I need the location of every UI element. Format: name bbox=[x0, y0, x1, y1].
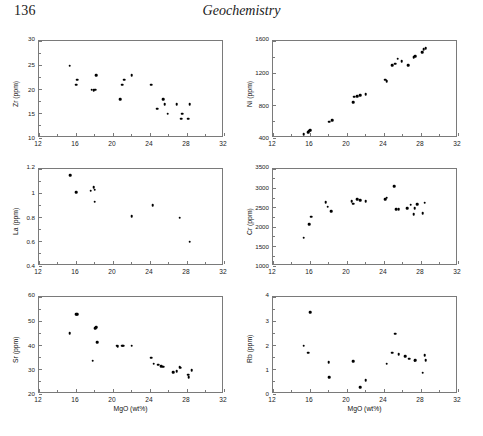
data-point-layer bbox=[39, 169, 222, 264]
data-point bbox=[422, 371, 425, 374]
data-point bbox=[75, 83, 78, 86]
y-axis-label: La (ppm) bbox=[12, 207, 19, 234]
y-axis-tick-label: 2500 bbox=[239, 203, 269, 210]
page: 136 Geochemistry 1015202530121620242832Z… bbox=[0, 0, 483, 436]
x-axis-tick bbox=[224, 261, 225, 264]
data-point bbox=[150, 356, 153, 359]
y-axis-tick-label: 1 bbox=[239, 365, 269, 372]
x-axis-tick-label: 32 bbox=[219, 268, 226, 275]
y-axis-tick bbox=[39, 266, 42, 267]
x-axis-tick-label: 24 bbox=[145, 396, 152, 403]
y-axis-tick-label: 30 bbox=[5, 35, 35, 42]
chart-panel-la: 0.40.60.811.2121620242832La (ppm) bbox=[38, 168, 223, 265]
data-point bbox=[423, 354, 426, 357]
figure-caption bbox=[24, 429, 464, 436]
x-axis-tick-label: 16 bbox=[305, 396, 312, 403]
x-axis-tick-label: 16 bbox=[305, 268, 312, 275]
x-axis-tick-label: 28 bbox=[182, 140, 189, 147]
y-axis-label: Ni (ppm) bbox=[246, 80, 253, 106]
y-axis-tick bbox=[273, 266, 276, 267]
data-point bbox=[424, 47, 427, 50]
data-point bbox=[69, 174, 72, 177]
data-point-layer bbox=[39, 297, 222, 392]
data-point bbox=[359, 199, 362, 202]
x-axis-tick bbox=[458, 389, 459, 392]
data-point bbox=[385, 362, 388, 365]
data-point bbox=[76, 313, 79, 316]
x-axis-tick-label: 28 bbox=[182, 268, 189, 275]
data-point bbox=[394, 333, 397, 336]
x-axis-tick-label: 32 bbox=[219, 396, 226, 403]
y-axis-tick bbox=[39, 138, 42, 139]
chart-panel-ni: 40080012001600121620242832Ni (ppm) bbox=[272, 40, 457, 137]
x-axis-label: MgO (wt%) bbox=[114, 405, 148, 412]
y-axis-tick-label: 0 bbox=[239, 390, 269, 397]
data-point bbox=[188, 103, 191, 106]
data-point bbox=[400, 60, 403, 63]
data-point-layer bbox=[39, 41, 222, 136]
data-point bbox=[364, 93, 367, 96]
y-axis-tick-label: 25 bbox=[5, 61, 35, 68]
chart-panel-sr: 2030405060121620242832Sr (ppm)MgO (wt%) bbox=[38, 296, 223, 393]
data-point bbox=[152, 362, 155, 365]
y-axis-label: Zr (ppm) bbox=[12, 80, 19, 106]
data-point bbox=[190, 369, 193, 372]
y-axis-label: Sr (ppm) bbox=[12, 336, 19, 362]
plot-frame bbox=[272, 40, 457, 137]
x-axis-tick-label: 20 bbox=[108, 268, 115, 275]
y-axis-tick bbox=[273, 394, 276, 395]
y-axis-tick-label: 1600 bbox=[239, 35, 269, 42]
data-point bbox=[68, 64, 71, 67]
y-axis-tick-label: 1 bbox=[5, 189, 35, 196]
x-axis-tick-label: 16 bbox=[305, 140, 312, 147]
data-point bbox=[398, 208, 401, 211]
chart-panel-zr: 1015202530121620242832Zr (ppm) bbox=[38, 40, 223, 137]
data-point bbox=[130, 74, 133, 77]
y-axis-tick-label: 4 bbox=[239, 291, 269, 298]
x-axis-tick bbox=[224, 389, 225, 392]
data-point bbox=[123, 79, 126, 82]
data-point bbox=[394, 62, 397, 65]
data-point bbox=[178, 216, 181, 219]
x-axis-tick-label: 12 bbox=[34, 396, 41, 403]
data-point bbox=[352, 360, 355, 363]
data-point bbox=[408, 358, 411, 361]
y-axis-tick-label: 400 bbox=[239, 134, 269, 141]
data-point bbox=[385, 80, 388, 83]
data-point bbox=[187, 117, 190, 120]
x-axis-tick-label: 20 bbox=[342, 396, 349, 403]
data-point bbox=[116, 345, 119, 348]
y-axis-tick-label: 20 bbox=[5, 390, 35, 397]
data-point bbox=[302, 344, 305, 347]
data-point bbox=[176, 370, 179, 373]
data-point bbox=[162, 366, 165, 369]
data-point bbox=[90, 190, 93, 193]
x-axis-tick-label: 16 bbox=[71, 396, 78, 403]
data-point bbox=[179, 367, 182, 370]
data-point bbox=[416, 203, 419, 206]
data-point-layer bbox=[273, 169, 456, 264]
y-axis-label: Cr (ppm) bbox=[246, 208, 253, 235]
x-axis-tick-label: 20 bbox=[342, 268, 349, 275]
data-point bbox=[310, 215, 313, 218]
data-point bbox=[172, 371, 175, 374]
x-axis-tick bbox=[458, 133, 459, 136]
y-axis-tick-label: 0.8 bbox=[5, 213, 35, 220]
x-axis-tick-label: 16 bbox=[71, 268, 78, 275]
data-point bbox=[414, 55, 417, 58]
y-axis-tick bbox=[273, 138, 276, 139]
y-axis-tick-label: 3000 bbox=[239, 184, 269, 191]
x-axis-tick-label: 12 bbox=[34, 268, 41, 275]
data-point bbox=[166, 112, 169, 115]
x-axis-tick-label: 24 bbox=[379, 396, 386, 403]
data-point bbox=[130, 344, 133, 347]
data-point bbox=[424, 359, 427, 362]
x-axis-tick bbox=[224, 133, 225, 136]
plot-frame bbox=[272, 296, 457, 393]
running-head: 136 Geochemistry bbox=[0, 0, 483, 26]
data-point bbox=[188, 376, 191, 379]
data-point bbox=[308, 223, 311, 226]
data-point bbox=[327, 361, 330, 364]
plot-frame bbox=[38, 40, 223, 137]
y-axis-tick-label: 3500 bbox=[239, 163, 269, 170]
